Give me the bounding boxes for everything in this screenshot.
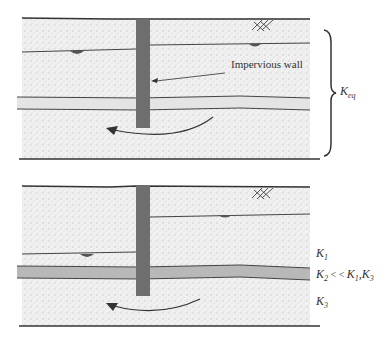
- k2-relation: < <: [328, 269, 347, 280]
- low-k-layer: [17, 96, 310, 110]
- k1-symbol: K: [316, 246, 324, 260]
- k3-symbol: K: [316, 294, 324, 308]
- sand-fill: [22, 18, 310, 159]
- k-eq-subscript: eq: [348, 91, 356, 100]
- impervious-wall-label: Impervious wall: [231, 58, 303, 70]
- k1-subscript: 1: [324, 253, 328, 262]
- k2-compare1: K: [347, 267, 355, 281]
- top-panel: [17, 18, 336, 159]
- k3-subscript: 3: [324, 301, 328, 310]
- k2-compare2-sub: 3: [370, 274, 374, 283]
- k3-label: K3: [316, 294, 328, 310]
- k2-label: K2 < < K1,K3: [316, 267, 374, 283]
- k-eq-label: Keq: [340, 84, 356, 100]
- k2-compare2: K: [362, 267, 370, 281]
- bottom-panel: [17, 186, 320, 326]
- impervious-wall: [136, 19, 150, 128]
- k1-label: K1: [316, 246, 328, 262]
- k2-symbol: K: [316, 267, 324, 281]
- sand-fill: [22, 186, 310, 326]
- ground-surface-line: [22, 186, 310, 187]
- k-eq-brace: [324, 30, 336, 156]
- diagram-canvas: [0, 0, 391, 338]
- impervious-wall: [136, 186, 150, 296]
- k-eq-symbol: K: [340, 84, 348, 98]
